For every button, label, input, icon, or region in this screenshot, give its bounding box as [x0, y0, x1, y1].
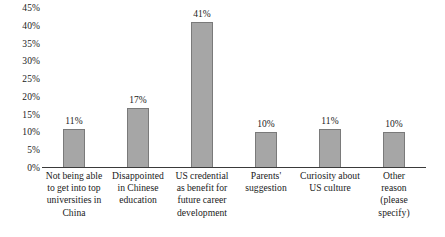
category-label: Not being ableto get into topuniversitie… — [42, 170, 106, 219]
plot-area: 11%17%41%10%11%10% — [42, 8, 426, 168]
x-axis-category-labels: Not being ableto get into topuniversitie… — [42, 170, 426, 237]
bar-slot: 10% — [234, 8, 298, 168]
category-label-line: Curiosity about — [298, 170, 362, 182]
category-label-line: to get into top — [42, 182, 106, 194]
category-label-line: China — [42, 207, 106, 219]
category-label-line: Other — [362, 170, 426, 182]
bar-value-label: 41% — [193, 9, 211, 19]
category-label-line: suggestion — [234, 182, 298, 194]
bar-slot: 17% — [106, 8, 170, 168]
bar[interactable] — [127, 108, 149, 168]
y-axis-tick-label: 30% — [0, 56, 40, 66]
category-label-line: reason — [362, 182, 426, 194]
category-label: US credentialas benefit forfuture career… — [170, 170, 234, 219]
category-label-line: Disappointed — [106, 170, 170, 182]
bar[interactable] — [255, 132, 277, 168]
y-axis-tick-label: 20% — [0, 92, 40, 102]
category-label-line: as benefit for — [170, 182, 234, 194]
category-label-line: Parents' — [234, 170, 298, 182]
y-axis-tick-label: 0% — [0, 163, 40, 173]
y-axis-tick-label: 10% — [0, 127, 40, 137]
category-label: Otherreason(pleasespecify) — [362, 170, 426, 219]
bar[interactable] — [191, 22, 213, 168]
y-axis: 45%40%35%30%25%20%15%10%5%0% — [0, 0, 40, 168]
category-label-line: US culture — [298, 182, 362, 194]
bar-slot: 10% — [362, 8, 426, 168]
y-axis-tick-label: 40% — [0, 21, 40, 31]
category-label-line: specify) — [362, 207, 426, 219]
category-label: Curiosity aboutUS culture — [298, 170, 362, 194]
category-label-line: universities in — [42, 194, 106, 206]
y-axis-tick-label: 15% — [0, 110, 40, 120]
bar-chart: 45%40%35%30%25%20%15%10%5%0% 11%17%41%10… — [0, 0, 445, 237]
y-axis-tick-label: 25% — [0, 74, 40, 84]
bar-value-label: 11% — [65, 116, 82, 126]
x-axis-line — [42, 167, 426, 168]
category-label-line: (please — [362, 194, 426, 206]
bar[interactable] — [383, 132, 405, 168]
bar-value-label: 11% — [321, 116, 338, 126]
category-label-line: future career — [170, 194, 234, 206]
bar-slot: 41% — [170, 8, 234, 168]
category-label: Disappointedin Chineseeducation — [106, 170, 170, 207]
category-label-line: US credential — [170, 170, 234, 182]
bar-slot: 11% — [298, 8, 362, 168]
y-axis-tick-label: 35% — [0, 39, 40, 49]
bar-slot: 11% — [42, 8, 106, 168]
bar-value-label: 10% — [385, 119, 403, 129]
bar-value-label: 10% — [257, 119, 275, 129]
y-axis-tick-label: 5% — [0, 145, 40, 155]
category-label-line: in Chinese — [106, 182, 170, 194]
bar-value-label: 17% — [129, 95, 147, 105]
category-label: Parents'suggestion — [234, 170, 298, 194]
category-label-line: Not being able — [42, 170, 106, 182]
category-label-line: development — [170, 207, 234, 219]
bar[interactable] — [63, 129, 85, 168]
category-label-line: education — [106, 194, 170, 206]
y-axis-tick-label: 45% — [0, 3, 40, 13]
bar[interactable] — [319, 129, 341, 168]
